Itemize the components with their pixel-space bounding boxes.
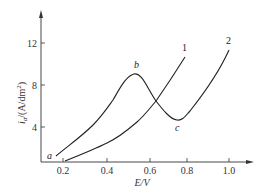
axes (39, 10, 254, 164)
x-tick-label: 1.0 (223, 165, 236, 176)
curve-1 (65, 57, 185, 161)
x-tick-label: 0.4 (101, 165, 114, 176)
polarization-chart: 12 8 4 0.2 0.4 0.6 0.8 1.0 E/V ia/(A/dm2… (0, 0, 256, 194)
point-a-label: a (47, 150, 52, 161)
x-tick-label: 0.6 (144, 165, 157, 176)
y-tick-label: 4 (32, 122, 37, 133)
y-tick-label: 12 (27, 38, 37, 49)
y-axis-title: ia/(A/dm2) (15, 82, 29, 124)
curve-2 (56, 50, 229, 156)
point-b-label: b (134, 59, 139, 70)
x-tick-label: 0.8 (181, 165, 194, 176)
y-tick-label: 8 (32, 80, 37, 91)
tick-labels: 12 8 4 0.2 0.4 0.6 0.8 1.0 (27, 38, 235, 176)
y-axis-arrow-icon (39, 10, 43, 18)
x-tick-label: 0.2 (57, 165, 70, 176)
curve-1-label: 1 (182, 42, 187, 53)
point-c-label: c (175, 122, 180, 133)
x-axis-title: E/V (134, 177, 152, 188)
curve-2-label: 2 (226, 35, 231, 46)
x-axis-arrow-icon (246, 160, 254, 164)
